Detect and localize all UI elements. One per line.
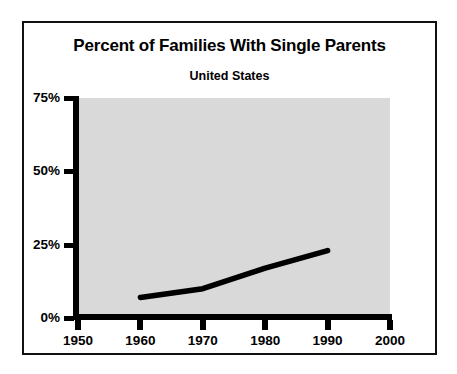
x-axis-tick-mark xyxy=(200,320,206,330)
y-axis-tick-mark xyxy=(64,243,74,248)
x-axis-tick-mark xyxy=(387,320,393,330)
plot-area xyxy=(78,98,390,318)
x-axis-tick-label: 2000 xyxy=(350,333,430,348)
chart-subtitle: United States xyxy=(24,69,435,83)
x-axis-line xyxy=(73,314,392,320)
y-axis-tick-label: 75% xyxy=(4,90,60,105)
y-axis-tick-label: 50% xyxy=(4,163,60,178)
y-axis-tick-mark xyxy=(64,316,74,321)
x-axis-tick-mark xyxy=(137,320,143,330)
y-axis-tick-label: 25% xyxy=(4,237,60,252)
x-axis-tick-mark xyxy=(75,320,81,330)
y-axis-tick-mark xyxy=(64,169,74,174)
y-axis-tick-mark xyxy=(64,96,74,101)
y-axis-tick-label: 0% xyxy=(4,310,60,325)
x-axis-tick-mark xyxy=(262,320,268,330)
x-axis-tick-mark xyxy=(325,320,331,330)
y-axis: 75%50%25%0% xyxy=(0,0,78,374)
chart-title: Percent of Families With Single Parents xyxy=(24,36,435,56)
